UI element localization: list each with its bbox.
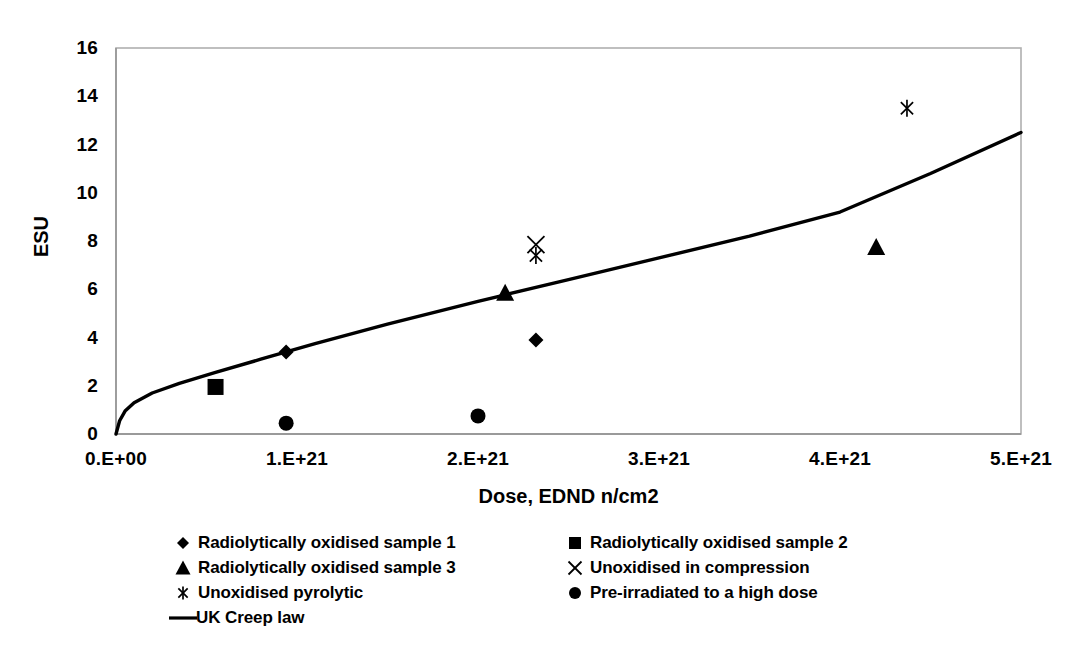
legend-label: Pre-irradiated to a high dose [590,583,818,603]
legend-item[interactable]: Unoxidised in compression [560,558,968,578]
x-tick-label: 2.E+21 [447,448,509,470]
data-point-circle [279,416,294,431]
x-tick-label: 4.E+21 [809,448,871,470]
y-tick-label: 12 [40,134,98,156]
plot-frame [116,48,1021,434]
y-tick-label: 2 [40,375,98,397]
y-tick-label: 14 [40,85,98,107]
legend-label: Radiolytically oxidised sample 3 [198,558,456,578]
legend-label: Unoxidised in compression [590,558,810,578]
chart-figure: ESU Dose, EDND n/cm2 0246810121416 0.E+0… [0,0,1089,663]
legend-label: Radiolytically oxidised sample 2 [590,533,848,553]
legend-marker-glyph [569,537,581,549]
legend-item[interactable]: Unoxidised pyrolytic [168,583,560,603]
legend-item[interactable]: Radiolytically oxidised sample 1 [168,533,560,553]
plot-area-border [116,48,1021,434]
legend-label: Unoxidised pyrolytic [198,583,363,603]
legend-item[interactable]: Radiolytically oxidised sample 3 [168,558,560,578]
legend-marker-glyph [569,561,582,574]
legend-marker-diamond-icon [168,533,198,553]
y-tick-label: 8 [40,230,98,252]
legend-label: Radiolytically oxidised sample 1 [198,533,456,553]
legend-marker-glyph [178,586,187,599]
y-tick-label: 16 [40,37,98,59]
legend-marker-triangle-icon [168,558,198,578]
y-tick-label: 4 [40,327,98,349]
legend-marker-cross-icon [560,558,590,578]
legend-item[interactable]: Pre-irradiated to a high dose [560,583,968,603]
legend-marker-line-icon [168,608,198,628]
legend-marker-glyph [177,537,189,549]
y-tick-label: 10 [40,182,98,204]
data-point-square [208,379,224,395]
x-tick-label: 3.E+21 [628,448,690,470]
y-tick-label: 0 [40,423,98,445]
x-axis-title: Dose, EDND n/cm2 [116,485,1021,508]
y-tick-label: 6 [40,278,98,300]
chart-legend: Radiolytically oxidised sample 1Radiolyt… [168,530,968,630]
x-tick-label: 1.E+21 [266,448,328,470]
legend-marker-circle-icon [560,583,590,603]
data-point-circle [471,408,486,423]
legend-label: UK Creep law [196,608,304,628]
legend-marker-square-icon [560,533,590,553]
legend-item[interactable]: UK Creep law [168,608,560,628]
legend-item[interactable]: Radiolytically oxidised sample 2 [560,533,968,553]
legend-marker-glyph [569,587,581,599]
legend-marker-glyph [176,560,191,574]
x-tick-label: 5.E+21 [990,448,1052,470]
x-tick-label: 0.E+00 [85,448,147,470]
legend-marker-asterisk-icon [168,583,198,603]
